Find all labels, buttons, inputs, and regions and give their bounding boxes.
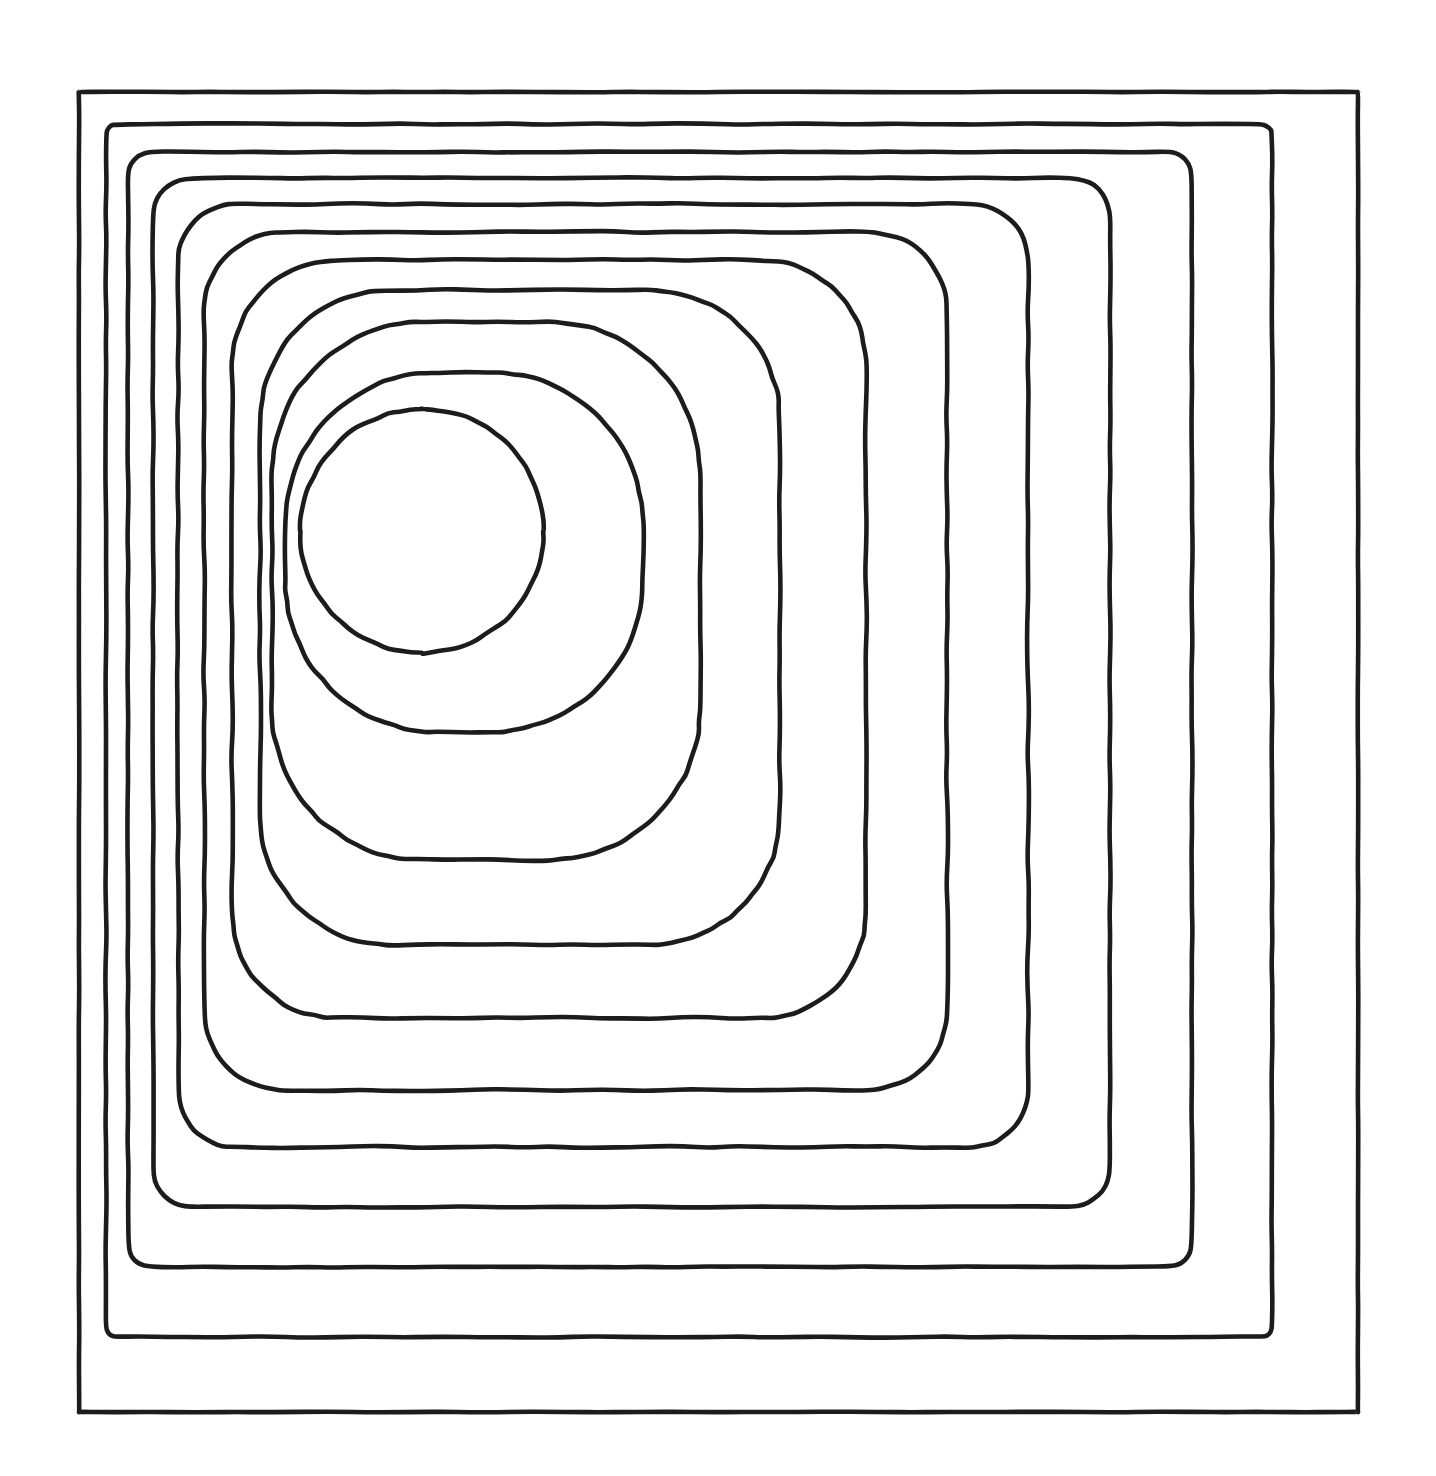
contour-plot-canvas [0,0,1436,1476]
contour-svg [0,0,1436,1476]
plot-background [0,0,1436,1476]
